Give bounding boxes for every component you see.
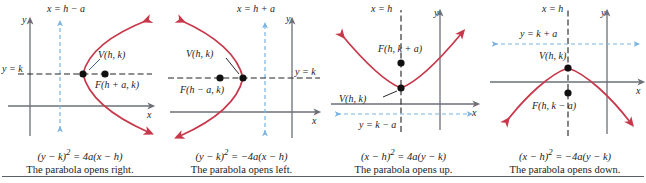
x-axis-label: x — [147, 110, 151, 120]
panel-opens-down: y x x = h y = k + a V(h, k) F(h, k − a) … — [484, 0, 646, 183]
focus-point — [101, 70, 108, 77]
vertex-point — [239, 74, 246, 81]
panel-equation: (x − h)2 = −4a(y − k) — [484, 146, 646, 163]
x-axis-label: x — [472, 108, 476, 118]
vertex-label: V(h, k) — [186, 49, 213, 59]
focus-point — [564, 89, 571, 96]
directrix-label: x = h — [371, 4, 392, 14]
panel-opens-up: y x x = h y = k − a V(h, k) F(h, k + a) … — [323, 0, 484, 183]
directrix-label: x = h + a — [237, 4, 275, 14]
vertex-label: V(h, k) — [339, 94, 366, 104]
focus-label: F(h + a, k) — [95, 80, 139, 90]
focus-label: F(h, k − a) — [532, 101, 576, 111]
vertex-leader-line — [89, 59, 100, 70]
vertex-point — [79, 70, 86, 77]
directrix-label: x = h − a — [47, 4, 85, 14]
vertex-label: V(h, k) — [539, 51, 566, 61]
panel-caption: (x − h)2 = 4a(y − k) The parabola opens … — [323, 146, 484, 176]
vertex-label: V(h, k) — [98, 50, 125, 60]
vertex-point — [564, 64, 571, 71]
panel-caption: (y − k)2 = −4a(x − h) The parabola opens… — [160, 146, 323, 176]
parabola-standard-forms-figure: y x x = h − a y = k V(h, k) F(h + a, k) … — [0, 0, 646, 183]
axis-line-label: y = k − a — [359, 120, 396, 130]
x-axis-label: x — [312, 116, 316, 126]
panel-description: The parabola opens left. — [160, 163, 323, 176]
focus-point — [397, 59, 404, 66]
panel-description: The parabola opens up. — [323, 163, 484, 176]
directrix-label: x = h — [542, 4, 563, 14]
vertex-point — [397, 84, 404, 91]
y-axis-label: y — [601, 8, 605, 18]
parabola-curve — [83, 20, 148, 132]
focus-label: F(h − a, k) — [180, 85, 224, 95]
vertex-leader-line — [226, 58, 239, 74]
focus-label: F(h, k + a) — [378, 44, 422, 54]
panel-description: The parabola opens right. — [0, 163, 160, 176]
y-axis-label: y — [22, 15, 26, 25]
panel-caption: (x − h)2 = −4a(y − k) The parabola opens… — [484, 146, 646, 176]
panel-opens-right: y x x = h − a y = k V(h, k) F(h + a, k) … — [0, 0, 160, 183]
vertex-leader-line — [383, 91, 397, 97]
panel-equation: (x − h)2 = 4a(y − k) — [323, 146, 484, 163]
panel-opens-down-graph — [484, 0, 646, 150]
panel-description: The parabola opens down. — [484, 163, 646, 176]
axis-line-label: y = k — [2, 64, 23, 74]
axis-line-label: y = k — [295, 67, 316, 77]
panel-caption: (y − k)2 = 4a(x − h) The parabola opens … — [0, 146, 160, 176]
x-axis-label: x — [636, 86, 640, 96]
panel-opens-left: y x x = h + a y = k V(h, k) F(h − a, k) … — [160, 0, 323, 183]
bottom-divider — [2, 176, 644, 177]
panel-equation: (y − k)2 = 4a(x − h) — [0, 146, 160, 163]
panel-equation: (y − k)2 = −4a(x − h) — [160, 146, 323, 163]
y-axis-label: y — [434, 8, 438, 18]
axis-line-label: y = k + a — [520, 29, 557, 39]
focus-point — [216, 74, 223, 81]
y-axis-label: y — [286, 14, 290, 24]
panel-opens-up-graph — [323, 0, 484, 150]
